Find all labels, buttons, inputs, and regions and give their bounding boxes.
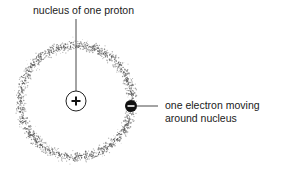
electron-label-line-2: around nucleus — [165, 112, 260, 125]
atom-diagram: nucleus of one proton one electron movin… — [0, 0, 283, 177]
electron-label: one electron moving around nucleus — [165, 99, 260, 125]
nucleus-icon — [66, 91, 86, 111]
electron-icon — [125, 100, 137, 112]
atom-svg — [0, 0, 283, 177]
electron-label-line-1: one electron moving — [165, 99, 260, 112]
nucleus-label: nucleus of one proton — [33, 4, 134, 17]
